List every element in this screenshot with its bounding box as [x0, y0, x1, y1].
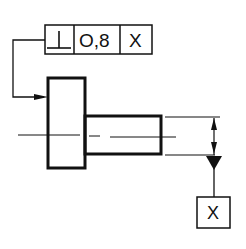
part-shaft — [85, 116, 161, 154]
feature-control-frame: O,8 X — [45, 25, 152, 54]
leader-arrowhead-icon — [34, 94, 48, 100]
datum-triangle-icon — [206, 156, 222, 170]
technical-drawing: O,8 X X — [0, 0, 246, 249]
tolerance-value: O,8 — [79, 30, 110, 51]
leader-line — [13, 40, 48, 100]
dimension-line — [211, 118, 217, 155]
part-flange — [48, 78, 85, 168]
datum-reference: X — [129, 30, 142, 51]
datum-indicator: X — [197, 156, 230, 228]
dimension-arrow-down-icon — [211, 142, 217, 154]
perpendicularity-icon — [47, 31, 71, 48]
datum-label: X — [207, 203, 219, 223]
dimension-arrow-up-icon — [211, 118, 217, 130]
center-line — [18, 135, 176, 137]
